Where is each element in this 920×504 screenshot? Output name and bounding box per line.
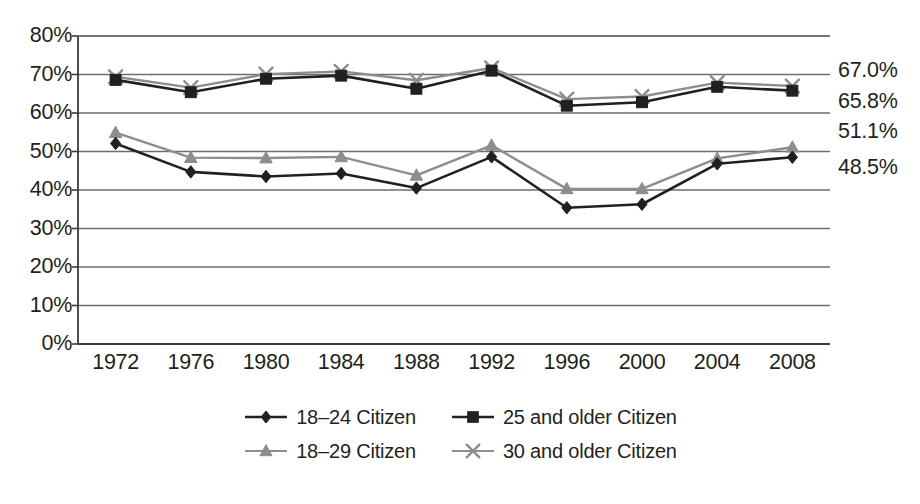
x-axis-tick-label: 1996: [543, 352, 590, 374]
series-end-label: 65.8%: [838, 91, 897, 113]
legend-entry[interactable]: 30 and older Citizen: [450, 440, 677, 463]
marker-square: [787, 85, 798, 96]
x-axis-tick-label: 1992: [468, 352, 515, 374]
series-line: [116, 143, 793, 207]
legend-entry-label: 25 and older Citizen: [503, 406, 677, 429]
y-axis-tick-label: 0%: [42, 333, 72, 355]
marker-square: [712, 81, 723, 92]
vote-turnout-line-chart: 0%10%20%30%40%50%60%70%80% 1972197619801…: [0, 0, 920, 504]
series-end-label: 48.5%: [838, 157, 897, 179]
marker-diamond: [411, 182, 421, 194]
y-axis-tick-label: 60%: [30, 102, 72, 124]
legend-entry[interactable]: 18–29 Citizen: [243, 440, 416, 463]
series-x: [109, 61, 799, 105]
series-triangle: [109, 126, 798, 194]
legend-entry-label: 30 and older Citizen: [503, 440, 677, 463]
marker-diamond: [261, 411, 271, 423]
marker-diamond: [562, 202, 572, 214]
x-axis-tick-label: 2004: [694, 352, 741, 374]
legend-entry[interactable]: 25 and older Citizen: [450, 406, 677, 429]
series-end-label: 67.0%: [838, 60, 897, 82]
x-axis-tick-label: 1988: [393, 352, 440, 374]
x-axis-tick-label: 1980: [243, 352, 290, 374]
series-line: [116, 133, 793, 189]
legend-row: 18–24 Citizen25 and older Citizen: [0, 400, 920, 434]
y-axis-tick-label: 80%: [30, 25, 72, 47]
marker-diamond: [111, 137, 121, 149]
x-axis-tick-label: 2000: [619, 352, 666, 374]
marker-square: [411, 83, 422, 94]
legend-entry-label: 18–24 Citizen: [296, 406, 416, 429]
marker-triangle: [109, 126, 121, 137]
y-axis-tick-label: 70%: [30, 64, 72, 86]
x-axis-tick-label: 1972: [92, 352, 139, 374]
marker-diamond: [787, 151, 797, 163]
marker-square: [261, 73, 272, 84]
marker-square: [468, 412, 479, 423]
marker-square: [561, 100, 572, 111]
chart-legend: 18–24 Citizen25 and older Citizen18–29 C…: [0, 400, 920, 468]
y-axis-tick-label: 20%: [30, 256, 72, 278]
marker-square: [486, 65, 497, 76]
legend-key-square-icon: [450, 407, 496, 427]
marker-square: [185, 87, 196, 98]
marker-diamond: [261, 170, 271, 182]
legend-key-x-icon: [450, 441, 496, 461]
legend-row: 18–29 Citizen30 and older Citizen: [0, 434, 920, 468]
series-end-label: 51.1%: [838, 121, 897, 143]
legend-key-triangle-icon: [243, 441, 289, 461]
marker-square: [637, 97, 648, 108]
marker-square: [336, 70, 347, 81]
marker-diamond: [637, 198, 647, 210]
marker-diamond: [336, 167, 346, 179]
y-axis-tick-label: 30%: [30, 218, 72, 240]
series-diamond: [111, 137, 798, 214]
marker-triangle: [485, 139, 497, 150]
x-axis-tick-label: 2008: [769, 352, 816, 374]
marker-diamond: [487, 151, 497, 163]
series-line: [116, 68, 793, 99]
series-square: [110, 65, 798, 111]
legend-entry-label: 18–29 Citizen: [296, 440, 416, 463]
y-axis-tick-label: 50%: [30, 141, 72, 163]
y-axis-tick-label: 40%: [30, 179, 72, 201]
legend-entry[interactable]: 18–24 Citizen: [243, 406, 416, 429]
legend-key-diamond-icon: [243, 407, 289, 427]
y-axis-tick-label: 10%: [30, 295, 72, 317]
marker-square: [110, 74, 121, 85]
x-axis-tick-label: 1976: [167, 352, 214, 374]
marker-diamond: [186, 166, 196, 178]
x-axis-tick-label: 1984: [318, 352, 365, 374]
